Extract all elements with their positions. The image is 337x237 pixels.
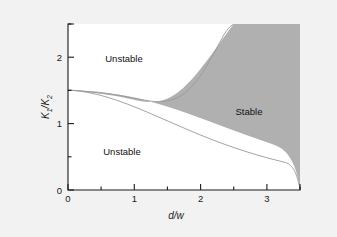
figure-container: 0 1 2 3 0 1 2 d/w K1/K2 Unstable Unstabl…: [0, 0, 337, 237]
y-tick-label-2: 2: [57, 52, 62, 63]
x-tick-label-0: 0: [65, 193, 70, 204]
x-tick-label-1: 1: [132, 193, 137, 204]
x-axis-title-w: w: [177, 210, 185, 221]
phase-diagram-chart: 0 1 2 3 0 1 2 d/w K1/K2 Unstable Unstabl…: [0, 0, 337, 237]
y-tick-label-1: 1: [57, 118, 62, 129]
svg-text:d/w: d/w: [168, 210, 184, 221]
region-label-stable: Stable: [236, 106, 263, 117]
top-overflow-mask: [68, 0, 300, 24]
region-label-unstable-upper: Unstable: [105, 53, 143, 64]
x-tick-label-3: 3: [264, 193, 269, 204]
y-tick-label-0: 0: [57, 185, 62, 196]
y-axis-title-sub2: 2: [46, 95, 53, 100]
x-axis-title: d/w: [168, 210, 184, 221]
region-label-unstable-lower: Unstable: [103, 146, 141, 157]
x-tick-label-2: 2: [198, 193, 203, 204]
